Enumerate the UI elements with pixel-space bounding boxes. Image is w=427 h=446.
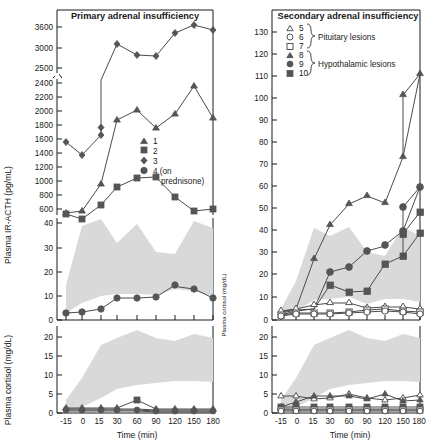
legend-right-label-6: 6 bbox=[299, 33, 304, 42]
panel-left-acth-upper: 3600 3000 2500 2400 2200 2000 1800 1600 … bbox=[35, 10, 217, 222]
y-ticklabels-left-cortisol: 20 15 10 5 0 bbox=[44, 333, 54, 418]
svg-text:10: 10 bbox=[44, 371, 54, 380]
svg-text:10: 10 bbox=[259, 293, 269, 302]
svg-text:15: 15 bbox=[94, 417, 104, 426]
svg-text:1400: 1400 bbox=[35, 149, 54, 158]
panel-right-cortisol: 20 15 10 5 0 bbox=[259, 326, 426, 440]
svg-text:30: 30 bbox=[44, 244, 54, 253]
legend-right-label-7: 7 bbox=[299, 42, 304, 51]
y-axis-label-acth-left: Plasma IR-ACTH (pg/mL) bbox=[3, 166, 13, 264]
svg-text:0: 0 bbox=[263, 316, 268, 325]
svg-text:0: 0 bbox=[48, 316, 53, 325]
legend-right-label-10: 10 bbox=[299, 69, 309, 78]
legend-brace-pituitary bbox=[307, 24, 315, 48]
svg-text:60: 60 bbox=[132, 417, 142, 426]
svg-text:0: 0 bbox=[295, 417, 300, 426]
svg-text:100: 100 bbox=[254, 94, 268, 103]
svg-text:30: 30 bbox=[259, 248, 269, 257]
series-9-marker-150 bbox=[400, 204, 407, 211]
svg-text:15: 15 bbox=[259, 352, 269, 361]
svg-text:600: 600 bbox=[39, 205, 53, 214]
svg-text:70: 70 bbox=[259, 160, 269, 169]
svg-text:15: 15 bbox=[44, 352, 54, 361]
svg-text:2400: 2400 bbox=[35, 79, 54, 88]
svg-text:120: 120 bbox=[254, 50, 268, 59]
svg-text:5: 5 bbox=[48, 390, 53, 399]
svg-text:10: 10 bbox=[259, 371, 269, 380]
svg-text:0: 0 bbox=[263, 409, 268, 418]
svg-text:-15: -15 bbox=[275, 417, 287, 426]
legend-left-label-4: 4 (on bbox=[153, 167, 172, 176]
svg-text:-15: -15 bbox=[60, 417, 72, 426]
y-axis-label-cortisol-left: Plasma cortisol (mg/dL) bbox=[3, 335, 13, 425]
legend-left-label-1: 1 bbox=[153, 137, 158, 146]
panel-title-right: Secondary adrenal insufficiency bbox=[278, 11, 420, 21]
y-ticklabels-left-acth-lower: 40 30 20 10 0 bbox=[44, 219, 54, 325]
legend-right-label-5: 5 bbox=[299, 24, 304, 33]
svg-text:20: 20 bbox=[259, 270, 269, 279]
legend-right-label-8: 8 bbox=[299, 51, 304, 60]
svg-text:2200: 2200 bbox=[35, 93, 54, 102]
x-axis-label-left: Time (min) bbox=[117, 430, 158, 440]
legend-group-pituitary: Pituitary lesions bbox=[318, 33, 375, 42]
panel-left-cortisol: 20 15 10 5 0 bbox=[44, 326, 220, 440]
svg-text:800: 800 bbox=[39, 191, 53, 200]
y-ticks-right-cortisol bbox=[272, 337, 277, 413]
svg-text:40: 40 bbox=[44, 219, 54, 228]
svg-text:20: 20 bbox=[44, 333, 54, 342]
x-ticklabels-left: -15 0 15 30 60 90 120 150 180 bbox=[60, 417, 220, 426]
svg-text:15: 15 bbox=[308, 417, 318, 426]
legend-left-label-3: 3 bbox=[153, 157, 158, 166]
svg-text:0: 0 bbox=[48, 409, 53, 418]
x-ticks-left-acth-lower bbox=[66, 315, 213, 320]
svg-text:30: 30 bbox=[325, 417, 335, 426]
panel-left-acth-lower: 40 30 20 10 0 bbox=[44, 218, 216, 325]
y-ticklabels-right-cortisol: 20 15 10 5 0 bbox=[259, 333, 269, 418]
svg-text:1600: 1600 bbox=[35, 135, 54, 144]
svg-text:90: 90 bbox=[259, 116, 269, 125]
x-ticklabels-right: -15 0 15 30 60 90 120 150 180 bbox=[275, 417, 426, 426]
y-ticks-left-cortisol bbox=[57, 337, 62, 413]
svg-text:5: 5 bbox=[263, 390, 268, 399]
svg-text:30: 30 bbox=[112, 417, 122, 426]
svg-text:130: 130 bbox=[254, 28, 268, 37]
svg-text:90: 90 bbox=[362, 417, 372, 426]
svg-text:2500: 2500 bbox=[35, 64, 54, 73]
svg-text:3600: 3600 bbox=[35, 23, 54, 32]
svg-text:10: 10 bbox=[44, 292, 54, 301]
svg-text:150: 150 bbox=[187, 417, 201, 426]
series-10-marker-150 bbox=[400, 231, 406, 237]
x-axis-label-right: Time (min) bbox=[330, 430, 371, 440]
y-ticklabels-left-upper: 3600 3000 2500 2400 2200 2000 1800 1600 … bbox=[35, 23, 54, 214]
svg-text:90: 90 bbox=[151, 417, 161, 426]
legend-left-label-2: 2 bbox=[153, 147, 158, 156]
svg-text:40: 40 bbox=[259, 226, 269, 235]
legend-right: 5 6 7 8 9 10 Pituitary lesions Hypothala… bbox=[287, 24, 396, 78]
svg-text:60: 60 bbox=[344, 417, 354, 426]
svg-text:20: 20 bbox=[44, 268, 54, 277]
svg-text:0: 0 bbox=[81, 417, 86, 426]
svg-text:1000: 1000 bbox=[35, 177, 54, 186]
legend-brace-hypothalamic bbox=[307, 51, 315, 75]
svg-text:120: 120 bbox=[168, 417, 182, 426]
y-ticklabels-right-acth: 130 120 110 100 90 80 70 60 50 40 30 20 … bbox=[254, 28, 268, 325]
svg-text:1800: 1800 bbox=[35, 121, 54, 130]
y-ticks-left-acth-lower bbox=[57, 223, 62, 320]
panel-title-left: Primary adrenal insufficiency bbox=[71, 11, 200, 21]
svg-text:20: 20 bbox=[259, 333, 269, 342]
svg-text:3000: 3000 bbox=[35, 44, 54, 53]
legend-group-hypothalamic: Hypothalamic lesions bbox=[318, 60, 395, 69]
figure-root: Plasma IR-ACTH (pg/mL) Plasma cortisol (… bbox=[0, 0, 427, 446]
svg-text:150: 150 bbox=[396, 417, 410, 426]
svg-text:180: 180 bbox=[412, 417, 426, 426]
svg-text:80: 80 bbox=[259, 138, 269, 147]
svg-text:2000: 2000 bbox=[35, 107, 54, 116]
y-axis-label-cortisol-right: Plasma cortisol (mg/dL) bbox=[221, 273, 227, 336]
legend-left-label-4-cont: prednisone) bbox=[161, 177, 205, 186]
y-ticks-right-acth bbox=[272, 32, 277, 320]
series-10-marker-180 bbox=[417, 209, 423, 215]
figure-svg: Plasma IR-ACTH (pg/mL) Plasma cortisol (… bbox=[0, 0, 427, 446]
panel-right-acth: 130 120 110 100 90 80 70 60 50 40 30 20 … bbox=[254, 10, 423, 325]
svg-text:180: 180 bbox=[206, 417, 220, 426]
svg-text:50: 50 bbox=[259, 204, 269, 213]
